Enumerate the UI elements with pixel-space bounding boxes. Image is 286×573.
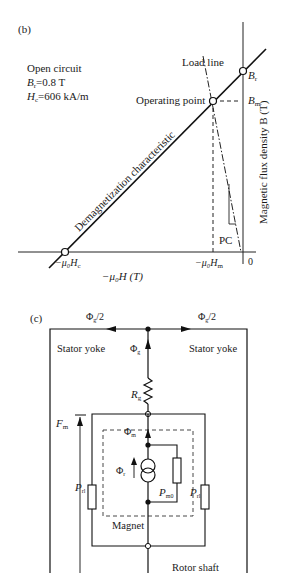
- operating-point-label: Operating point: [136, 94, 205, 106]
- pc-label: PC: [219, 234, 232, 246]
- gap-reluctance-resistor: [144, 378, 152, 404]
- prl-right-resistor: [201, 485, 209, 509]
- rg-label: Rg: [130, 388, 142, 402]
- flux-source-circle-upper: [141, 459, 155, 473]
- phi-m-label: Φm: [124, 426, 136, 438]
- demagnetization-label: Demagnetization characteristic: [72, 128, 177, 233]
- load-line: [203, 56, 241, 252]
- br-axis-label: Br: [248, 69, 258, 83]
- hc-condition: Hc=606 kA/m: [26, 90, 89, 104]
- flux-right-arrow-icon: [181, 326, 191, 332]
- conditions-text: Open circuit Br=0.8 T Hc=606 kA/m: [26, 62, 89, 104]
- y-axis-label: Magnetic flux density B (T): [257, 100, 270, 224]
- br-condition: Br=0.8 T: [27, 76, 66, 90]
- hc-point-marker: [62, 249, 69, 256]
- flux-gap-label: Φg: [130, 343, 140, 355]
- figure: (b) Open circuit Br=0.8 T Hc=606 kA/m Lo…: [0, 0, 286, 573]
- pm0-label: Pm0: [158, 486, 173, 499]
- lower-rotor-node: [145, 543, 150, 548]
- load-line-label: Load line: [182, 56, 224, 68]
- magnet-label: Magnet: [112, 520, 144, 531]
- x-axis-label: −μ₀H (T): [102, 270, 143, 283]
- pm0-resistor: [173, 458, 181, 483]
- prl-right-label: Prl: [189, 486, 201, 499]
- stator-yoke-right-label: Stator yoke: [189, 343, 237, 354]
- panel-b-label: (b): [18, 23, 31, 36]
- pm0-wire-top: [148, 445, 177, 458]
- flux-half-left-label: Φg/2: [86, 311, 104, 323]
- phi-r-label: Φr: [116, 465, 125, 477]
- zero-tick-label: 0: [248, 256, 253, 267]
- prl-left-label: Prl: [74, 481, 86, 494]
- panel-c-label: (c): [30, 312, 43, 325]
- rotor-shaft-label: Rotor shaft: [172, 562, 219, 573]
- fm-label: Fm: [55, 417, 69, 431]
- stator-yoke-left-label: Stator yoke: [57, 343, 105, 354]
- flux-half-right-label: Φg/2: [198, 311, 216, 323]
- flux-left-arrow-icon: [106, 326, 116, 332]
- operating-point-marker: [210, 98, 217, 105]
- prl-left-resistor: [88, 485, 96, 509]
- hc-tick-label: −μ₀Hc: [55, 257, 81, 270]
- open-circuit-label: Open circuit: [27, 62, 82, 74]
- pc-slope-triangle: [229, 184, 236, 224]
- fm-arrow-icon: [77, 417, 83, 426]
- br-point-marker: [240, 68, 247, 75]
- phi-r-arrow-icon: [131, 457, 137, 465]
- demagnetization-line: [49, 49, 266, 268]
- flux-gap-arrow-icon: [145, 339, 151, 349]
- hm-tick-label: −μ₀Hm: [195, 257, 223, 270]
